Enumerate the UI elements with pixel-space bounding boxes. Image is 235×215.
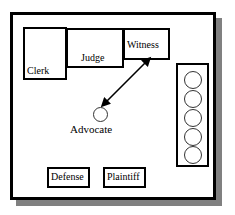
jury-seat[interactable]	[184, 109, 202, 127]
jury-seat[interactable]	[184, 128, 202, 146]
jury-box[interactable]	[176, 63, 209, 167]
jury-seat[interactable]	[184, 146, 202, 164]
defense-label: Defense	[51, 172, 84, 182]
advocate-position-marker[interactable]	[93, 107, 108, 122]
witness-label: Witness	[127, 40, 159, 50]
courtroom-diagram: Clerk Judge Witness Defense Plaintiff Ad…	[0, 0, 235, 215]
courtroom-outer-wall: Clerk Judge Witness Defense Plaintiff Ad…	[10, 12, 216, 200]
advocate-label: Advocate	[70, 124, 112, 135]
jury-seat[interactable]	[184, 71, 202, 89]
clerk-label: Clerk	[27, 66, 49, 76]
judge-label: Judge	[81, 53, 104, 63]
jury-seat[interactable]	[184, 90, 202, 108]
courtroom-floor: Clerk Judge Witness Defense Plaintiff Ad…	[13, 15, 213, 197]
plaintiff-label: Plaintiff	[107, 172, 140, 182]
